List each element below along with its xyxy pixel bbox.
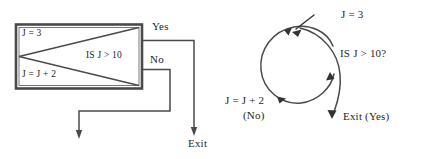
- spiral-condition-label: IS J > 10?: [340, 47, 386, 59]
- spiral-init-statement-label: J = 3: [341, 8, 363, 20]
- spiral-condition-text: IS J > 10?: [340, 47, 386, 59]
- loop-circle-path: [261, 26, 334, 103]
- figure-canvas: J = 3 IS J > 10 J = J + 2 Yes No Exit J …: [0, 0, 423, 159]
- exit-curve-path: [300, 28, 340, 112]
- entry-arrowhead: [292, 30, 302, 38]
- exit-arrowhead: [328, 110, 337, 119]
- right-spiral-diagram: J = 3 IS J > 10? J = J + 2 (No) Exit (Ye…: [0, 0, 423, 159]
- spiral-increment-statement-label: J = J + 2: [225, 94, 264, 106]
- increment-arrowhead: [277, 97, 286, 104]
- spiral-no-label: (No): [243, 109, 265, 121]
- spiral-exit-label: Exit (Yes): [343, 110, 389, 122]
- right-diagram-vectors: [0, 0, 423, 159]
